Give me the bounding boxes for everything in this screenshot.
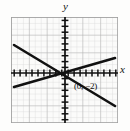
axis-label-x: x [120,64,125,75]
coordinate-plane [11,17,118,123]
plot-svg [11,17,118,123]
axis-label-y: y [63,1,68,12]
graph-figure: y x (0, −2) [0,0,130,131]
point-annotation-label: (0, −2) [74,81,97,91]
